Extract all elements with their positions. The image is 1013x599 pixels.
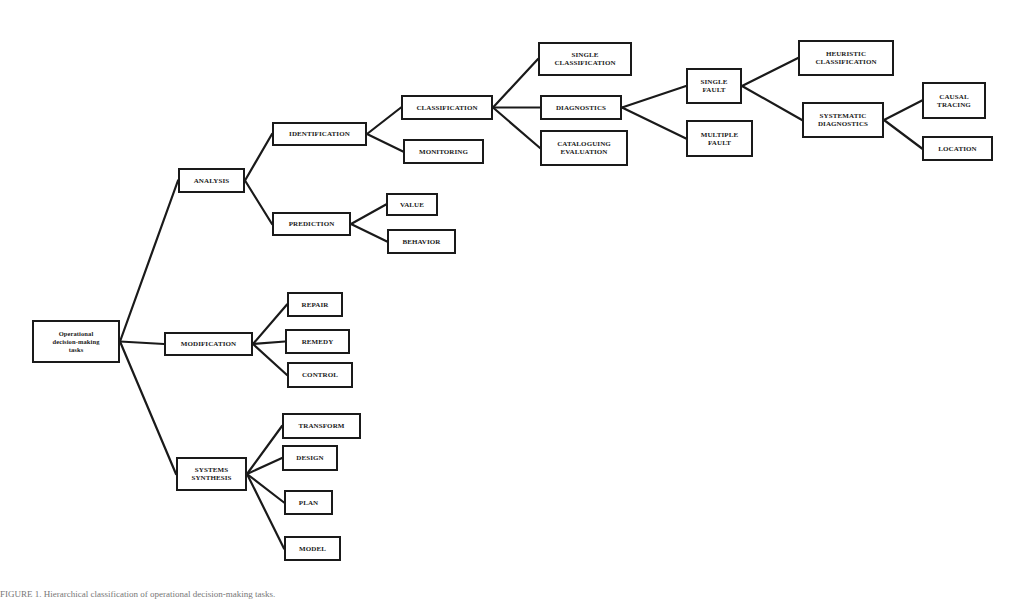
edge-classification-to-single-classification xyxy=(493,59,538,108)
edge-diagnostics-to-single-fault xyxy=(622,86,686,108)
edge-prediction-to-behavior xyxy=(351,224,387,242)
edge-analysis-to-identification xyxy=(245,134,272,181)
edge-modification-to-repair xyxy=(253,305,287,345)
edge-analysis-to-prediction xyxy=(245,181,272,225)
edge-classification-to-cataloguing-evaluation xyxy=(493,108,540,149)
node-remedy: REMEDY xyxy=(285,329,350,354)
figure-caption: FIGURE 1. Hierarchical classification of… xyxy=(0,589,600,599)
node-transform: TRANSFORM xyxy=(282,413,361,439)
node-causal-tracing: CAUSAL TRACING xyxy=(922,82,986,119)
edge-systematic-diagnostics-to-causal-tracing xyxy=(884,101,922,121)
node-analysis: ANALYSIS xyxy=(178,168,245,193)
edge-modification-to-remedy xyxy=(253,342,285,345)
edge-systems-synthesis-to-model xyxy=(247,474,284,549)
node-diagnostics: DIAGNOSTICS xyxy=(540,95,622,120)
node-identification: IDENTIFICATION xyxy=(272,122,367,146)
edge-root-to-systems-synthesis xyxy=(120,342,176,475)
node-plan: PLAN xyxy=(284,490,333,515)
node-value: VALUE xyxy=(386,193,438,216)
node-multiple-fault: MULTIPLE FAULT xyxy=(686,120,753,157)
node-cataloguing-evaluation: CATALOGUING EVALUATION xyxy=(540,130,628,166)
edge-single-fault-to-systematic-diagnostics xyxy=(742,86,802,120)
node-classification: CLASSIFICATION xyxy=(401,95,493,120)
edge-root-to-modification xyxy=(120,342,164,345)
node-monitoring: MONITORING xyxy=(403,139,484,164)
node-model: MODEL xyxy=(284,536,341,561)
edge-modification-to-control xyxy=(253,344,287,375)
node-repair: REPAIR xyxy=(287,292,343,317)
edge-prediction-to-value xyxy=(351,205,386,225)
edge-systems-synthesis-to-plan xyxy=(247,474,284,503)
node-root: Operational decision-making tasks xyxy=(32,320,120,363)
node-design: DESIGN xyxy=(282,445,338,471)
node-prediction: PREDICTION xyxy=(272,212,351,236)
node-heuristic-classification: HEURISTIC CLASSIFICATION xyxy=(798,40,894,76)
node-modification: MODIFICATION xyxy=(164,332,253,356)
edge-single-fault-to-heuristic-classification xyxy=(742,58,798,86)
edge-identification-to-monitoring xyxy=(367,134,403,152)
node-systematic-diagnostics: SYSTEMATIC DIAGNOSTICS xyxy=(802,102,884,138)
edge-diagnostics-to-multiple-fault xyxy=(622,108,686,139)
edge-root-to-analysis xyxy=(120,181,178,342)
node-single-classification: SINGLE CLASSIFICATION xyxy=(538,42,632,76)
node-location: LOCATION xyxy=(922,136,993,161)
node-systems-synthesis: SYSTEMS SYNTHESIS xyxy=(176,457,247,491)
node-control: CONTROL xyxy=(287,362,353,388)
node-single-fault: SINGLE FAULT xyxy=(686,68,742,104)
edge-identification-to-classification xyxy=(367,108,401,135)
edge-systematic-diagnostics-to-location xyxy=(884,120,922,149)
node-behavior: BEHAVIOR xyxy=(387,229,456,254)
